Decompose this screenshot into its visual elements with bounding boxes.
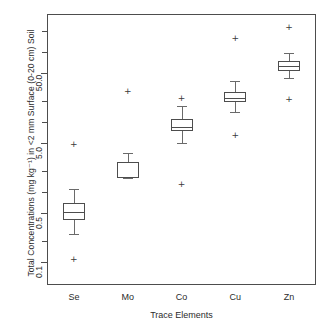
y-axis-tick-label: 0.5 <box>34 212 44 234</box>
y-axis-tick-minor <box>42 192 47 193</box>
whisker-lower <box>74 220 75 234</box>
whisker-cap-upper <box>123 153 133 154</box>
median-line <box>171 127 193 128</box>
y-axis-tick-label: 5.0 <box>34 142 44 164</box>
median-line <box>278 66 300 67</box>
y-axis-tick-minor <box>42 31 47 32</box>
outlier-point: + <box>285 22 293 31</box>
whisker-upper <box>289 53 290 61</box>
median-line <box>117 177 139 178</box>
whisker-upper <box>74 189 75 203</box>
x-axis-tick-label-mo: Mo <box>108 292 148 302</box>
median-line <box>63 212 85 213</box>
y-axis-tick-minor <box>42 241 47 242</box>
x-axis-tick-label-co: Co <box>162 292 202 302</box>
whisker-upper <box>235 81 236 91</box>
x-axis-tick-label-se: Se <box>54 292 94 302</box>
outlier-point: + <box>232 33 240 42</box>
y-axis-tick-minor <box>42 122 47 123</box>
y-axis-tick-label: 0.1 <box>34 261 44 283</box>
whisker-cap-lower <box>230 112 240 113</box>
whisker-cap-upper <box>69 189 79 190</box>
whisker-cap-upper <box>177 106 187 107</box>
whisker-cap-lower <box>123 178 133 179</box>
whisker-cap-upper <box>284 53 294 54</box>
x-axis-tick-label-zn: Zn <box>269 292 309 302</box>
outlier-point: + <box>70 255 78 264</box>
box-iqr <box>117 162 139 178</box>
whisker-upper <box>182 106 183 119</box>
whisker-upper <box>128 153 129 162</box>
outlier-point: + <box>124 86 132 95</box>
outlier-point: + <box>178 93 186 102</box>
outlier-point: + <box>178 179 186 188</box>
plot-frame <box>47 14 316 285</box>
whisker-cap-lower <box>69 234 79 235</box>
box-iqr <box>171 119 193 131</box>
y-axis-tick-label: 50.0 <box>34 72 44 94</box>
y-axis-tick-minor <box>42 52 47 53</box>
median-line <box>224 98 246 99</box>
x-axis-title: Trace Elements <box>47 310 316 320</box>
outlier-point: + <box>232 131 240 140</box>
outlier-point: + <box>285 95 293 104</box>
x-axis-tick-label-cu: Cu <box>215 292 255 302</box>
whisker-cap-lower <box>284 78 294 79</box>
whisker-lower <box>182 131 183 143</box>
whisker-lower <box>235 102 236 111</box>
y-axis-tick-minor <box>42 101 47 102</box>
whisker-cap-upper <box>230 81 240 82</box>
whisker-cap-lower <box>177 143 187 144</box>
outlier-point: + <box>70 140 78 149</box>
boxplot-chart: Total Concentrations (mg kg⁻¹) in <2 mm … <box>0 0 332 329</box>
y-axis-tick-minor <box>42 171 47 172</box>
